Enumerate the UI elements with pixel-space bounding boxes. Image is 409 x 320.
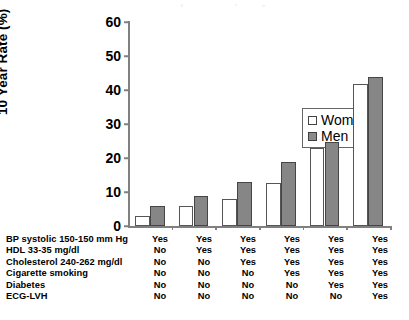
risk-factor-cell: Yes [270,234,314,244]
risk-factor-cell: No [182,257,226,267]
x-axis-tick [390,226,392,230]
y-axis-tick-label: 30 [105,116,121,132]
bar-men-group-1 [150,206,165,226]
risk-factor-cell: No [182,280,226,290]
risk-factor-cell: Yes [358,245,402,255]
risk-factor-cell: No [138,268,182,278]
y-axis-tick [124,21,128,23]
y-axis-tick [124,191,128,193]
risk-factor-cell: Yes [314,234,358,244]
risk-factor-label: Cholesterol 240-262 mg/dl [6,257,138,267]
risk-factor-cell: Yes [182,234,226,244]
risk-factor-cell: No [226,291,270,301]
risk-factor-row: DiabetesNoNoNoNoYesYes [6,280,404,291]
risk-factor-cell: No [138,245,182,255]
risk-factor-label: Cigarette smoking [6,268,138,278]
risk-factor-cell: No [226,268,270,278]
bar-men-group-4 [281,162,296,226]
x-axis-tick [346,226,348,230]
risk-factor-cell: Yes [358,280,402,290]
y-axis-tick-label: 20 [105,150,121,166]
y-axis-tick [124,89,128,91]
bar-women-group-5 [310,148,325,226]
risk-factor-cell: Yes [270,268,314,278]
risk-factor-cell: No [182,268,226,278]
legend-swatch-women-icon [308,116,317,125]
y-axis-tick-label: 50 [105,48,121,64]
risk-factor-row: BP systolic 150-150 mm HgYesYesYesYesYes… [6,234,404,245]
y-axis-tick [124,225,128,227]
bar-men-group-5 [325,142,340,226]
risk-factor-cell: Yes [314,280,358,290]
x-axis-tick [172,226,174,230]
y-axis-tick-label: 10 [105,184,121,200]
risk-factor-table: BP systolic 150-150 mm HgYesYesYesYesYes… [6,234,404,302]
risk-factor-cell: Yes [358,234,402,244]
risk-factor-label: BP systolic 150-150 mm Hg [6,234,138,244]
risk-factor-cell: No [138,257,182,267]
x-axis-tick [259,226,261,230]
risk-factor-cell: Yes [138,234,182,244]
risk-factor-cell: Yes [358,268,402,278]
risk-factor-cell: No [314,291,358,301]
bar-men-group-2 [194,196,209,226]
bar-women-group-6 [353,84,368,226]
figure-root: 10 Year Rate (%) Women Men 6050403020100… [0,0,409,320]
risk-factor-cell: Yes [358,291,402,301]
risk-factor-label: ECG-LVH [6,291,138,301]
risk-factor-row: Cigarette smokingNoNoNoYesYesYes [6,268,404,279]
risk-factor-label: Diabetes [6,280,138,290]
bar-men-group-3 [237,182,252,226]
y-axis-tick-label: 60 [105,14,121,30]
risk-factor-cell: Yes [226,257,270,267]
risk-factor-cell: Yes [314,245,358,255]
bar-women-group-1 [135,216,150,226]
risk-factor-cell: Yes [314,257,358,267]
risk-factor-cell: No [226,280,270,290]
risk-factor-cell: Yes [314,268,358,278]
y-axis-tick [124,55,128,57]
risk-factor-row: Cholesterol 240-262 mg/dlNoNoYesYesYesYe… [6,257,404,268]
risk-factor-cell: No [138,291,182,301]
bar-men-group-6 [368,77,383,226]
y-axis-tick [124,157,128,159]
risk-factor-cell: Yes [270,245,314,255]
risk-factor-cell: Yes [270,257,314,267]
risk-factor-cell: No [138,280,182,290]
y-axis-title: 10 Year Rate (%) [0,9,10,115]
x-axis-tick [215,226,217,230]
risk-factor-cell: Yes [358,257,402,267]
bar-women-group-3 [222,199,237,226]
risk-factor-label: HDL 33-35 mg/dl [6,245,138,255]
plot-area: Women Men 6050403020100 [128,22,390,226]
risk-factor-cell: No [182,291,226,301]
y-axis-tick-label: 0 [113,218,121,234]
x-axis-tick [303,226,305,230]
risk-factor-cell: Yes [226,245,270,255]
risk-factor-cell: No [270,280,314,290]
risk-factor-cell: Yes [226,234,270,244]
risk-factor-row: HDL 33-35 mg/dlNoYesYesYesYesYes [6,245,404,256]
risk-factor-cell: Yes [182,245,226,255]
bar-women-group-2 [179,206,194,226]
risk-factor-row: ECG-LVHNoNoNoNoNoYes [6,291,404,302]
risk-factor-cell: No [270,291,314,301]
bar-women-group-4 [266,183,281,226]
scan-artifact [170,3,290,8]
y-axis-tick-label: 40 [105,82,121,98]
y-axis-tick [124,123,128,125]
legend-swatch-men-icon [308,132,317,141]
